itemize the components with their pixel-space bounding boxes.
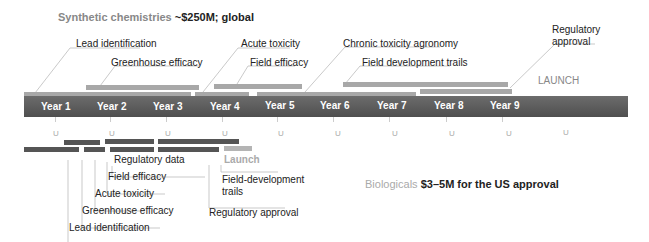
- year-label: Year 9: [490, 100, 519, 111]
- year-label: Year 8: [434, 100, 463, 111]
- bio-bar-lead: [24, 147, 79, 152]
- synthetic-bar-greenhouse: [86, 85, 199, 90]
- u-marker: U: [392, 129, 398, 138]
- u-marker: U: [165, 129, 171, 138]
- synthetic-stage-label: Field efficacy: [250, 57, 308, 68]
- bio-stage-label: Field efficacy: [108, 171, 166, 182]
- bio-bar-acute: [84, 147, 105, 152]
- u-marker: U: [222, 129, 228, 138]
- tick-mark: [502, 117, 503, 122]
- tick-mark: [166, 117, 167, 122]
- synthetic-stage-label: Regulatory approval: [552, 24, 612, 48]
- synthetic-cost: ~$250M; global: [175, 11, 254, 23]
- synthetic-bar-regulatory: [420, 89, 512, 94]
- u-marker: U: [449, 129, 455, 138]
- tick-mark: [389, 117, 390, 122]
- synthetic-bar-field-dev: [343, 82, 508, 87]
- year-label: Year 5: [265, 100, 294, 111]
- bio-stage-label: Lead identification: [69, 222, 150, 233]
- synthetic-title: Synthetic chemistries ~$250M; global: [58, 11, 254, 23]
- synthetic-label: Synthetic chemistries: [58, 11, 172, 23]
- bio-bar-greenhouse: [64, 140, 100, 145]
- u-marker: U: [278, 129, 284, 138]
- tick-mark: [222, 117, 223, 122]
- bio-bar-regulatory-data: [110, 147, 154, 152]
- year-label: Year 7: [377, 100, 406, 111]
- year-label: Year 2: [97, 101, 126, 112]
- year-label: Year 6: [320, 100, 349, 111]
- bio-launch-label: Launch: [224, 154, 260, 165]
- synthetic-stage-label: Acute toxicity: [241, 38, 300, 49]
- year-label: Year 3: [153, 101, 182, 112]
- bio-stage-label: Acute toxicity: [95, 188, 154, 199]
- tick-mark: [55, 117, 56, 122]
- year-label: Year 1: [41, 101, 70, 112]
- bio-stage-label: Greenhouse efficacy: [82, 205, 174, 216]
- bio-stage-label: Regulatory data: [114, 154, 185, 165]
- biological-title: Biologicals $3–5M for the US approval: [365, 178, 559, 190]
- u-marker: U: [506, 129, 512, 138]
- synthetic-stage-label: Greenhouse efficacy: [111, 57, 203, 68]
- u-marker: U: [53, 129, 59, 138]
- u-marker: U: [335, 129, 341, 138]
- biological-cost: $3–5M for the US approval: [421, 178, 559, 190]
- bio-stage-label: Regulatory approval: [209, 207, 299, 218]
- tick-mark: [446, 117, 447, 122]
- bio-stage-label: trails: [222, 186, 243, 197]
- synthetic-stage-label: Lead identification: [76, 38, 157, 49]
- synthetic-stage-label: Chronic toxicity agronomy: [343, 38, 458, 49]
- bio-bar-regulatory-approval: [158, 139, 239, 144]
- tick-mark: [277, 117, 278, 122]
- u-marker: U: [109, 129, 115, 138]
- bio-bar-field-dev: [158, 147, 219, 152]
- tick-mark: [110, 117, 111, 122]
- biological-label: Biologicals: [365, 178, 418, 190]
- synthetic-bar-field-efficacy: [214, 84, 302, 89]
- bio-bar-field-efficacy: [105, 139, 154, 144]
- bio-stage-label: Field-development: [222, 174, 304, 185]
- bio-bar-launch: [224, 146, 252, 151]
- tick-mark: [333, 117, 334, 122]
- u-marker: U: [563, 128, 569, 137]
- year-label: Year 4: [210, 101, 239, 112]
- synthetic-stage-label: Field development trails: [362, 57, 468, 68]
- launch-label: LAUNCH: [538, 75, 579, 86]
